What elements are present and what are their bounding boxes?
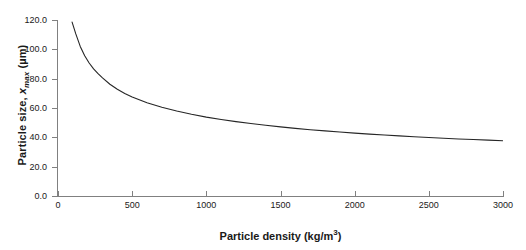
y-tick-label: 40.0 (7, 132, 47, 142)
y-tick-label: 100.0 (7, 44, 47, 54)
x-tick-mark (503, 191, 504, 197)
plot-area (58, 20, 503, 196)
chart-container: Particle size, xmax (µm) Particle densit… (0, 0, 526, 250)
x-tick-label: 0 (33, 200, 83, 210)
y-tick-label: 80.0 (7, 74, 47, 84)
x-axis-title: Particle density (kg/m3) (58, 228, 503, 242)
x-tick-label: 500 (107, 200, 157, 210)
y-axis-title-variable: x (16, 88, 28, 94)
data-series-line (58, 20, 503, 196)
y-tick-label: 20.0 (7, 162, 47, 172)
x-axis-title-tail: ) (338, 230, 342, 242)
series-polyline (72, 22, 503, 141)
x-tick-label: 2000 (330, 200, 380, 210)
x-tick-label: 3000 (478, 200, 526, 210)
y-tick-label: 60.0 (7, 103, 47, 113)
x-tick-label: 2500 (404, 200, 454, 210)
y-tick-label: 120.0 (7, 15, 47, 25)
x-tick-label: 1000 (181, 200, 231, 210)
x-axis-title-base: Particle density (kg/m (220, 230, 334, 242)
x-tick-label: 1500 (256, 200, 306, 210)
